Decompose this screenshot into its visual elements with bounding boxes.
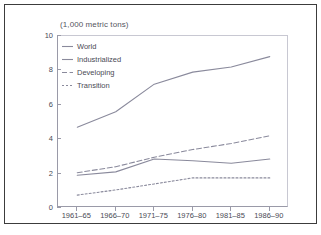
chart-legend: WorldIndustrializedDevelopingTransition (62, 40, 152, 92)
x-tick-label: 1971–75 (139, 211, 168, 220)
x-tick-label: 1986–90 (254, 211, 283, 220)
x-tick-label: 1976–80 (177, 211, 206, 220)
series-line (77, 178, 270, 195)
x-tick-mark (269, 207, 270, 211)
x-tick-label: 1961–65 (62, 211, 91, 220)
x-tick-label: 1981–85 (216, 211, 245, 220)
y-tick-mark (57, 173, 61, 174)
x-tick-label: 1966–70 (100, 211, 129, 220)
legend-label: Industrialized (77, 56, 121, 64)
y-tick-label: 8 (49, 65, 53, 74)
y-tick-mark (57, 138, 61, 139)
x-tick-mark (76, 207, 77, 211)
x-tick-mark (153, 207, 154, 211)
legend-label: Transition (77, 82, 110, 90)
legend-label: World (77, 43, 96, 51)
x-axis: 1961–651966–701971–751976–801981–851986–… (57, 209, 288, 223)
legend-item-transition: Transition (62, 79, 152, 92)
legend-line-swatch (62, 69, 73, 76)
chart-title: (1,000 metric tons) (60, 20, 129, 29)
y-tick-label: 2 (49, 168, 53, 177)
y-tick-mark (57, 104, 61, 105)
y-tick-label: 4 (49, 134, 53, 143)
chart-figure: (1,000 metric tons) 0246810 1961–651966–… (0, 0, 321, 235)
y-tick-label: 0 (49, 203, 53, 212)
y-tick-mark (57, 35, 61, 36)
legend-item-world: World (62, 40, 152, 53)
y-tick-label: 10 (45, 31, 53, 40)
x-tick-mark (115, 207, 116, 211)
legend-item-developing: Developing (62, 66, 152, 79)
legend-line-swatch (62, 56, 73, 63)
x-tick-mark (230, 207, 231, 211)
legend-label: Developing (77, 69, 115, 77)
y-tick-mark (57, 207, 61, 208)
legend-line-swatch (62, 82, 73, 89)
series-line (77, 159, 270, 175)
legend-line-swatch (62, 43, 73, 50)
series-line (77, 136, 270, 173)
y-tick-mark (57, 69, 61, 70)
x-tick-mark (192, 207, 193, 211)
y-tick-label: 6 (49, 99, 53, 108)
legend-item-industrialized: Industrialized (62, 53, 152, 66)
y-axis: 0246810 (40, 35, 53, 207)
